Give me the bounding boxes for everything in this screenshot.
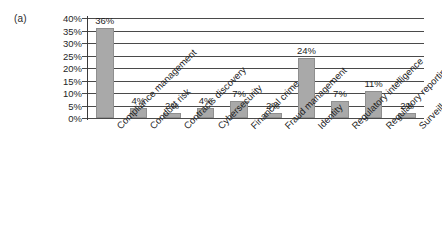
x-axis-category-label: Contracts discovery	[182, 124, 189, 131]
gridline	[88, 43, 424, 44]
gridline	[88, 56, 424, 57]
y-axis-tick-label: 5%	[48, 102, 82, 112]
y-axis-tick-label: 15%	[48, 77, 82, 87]
y-axis-tick-label: 35%	[48, 27, 82, 37]
x-axis-category-label: Fraud management	[283, 124, 290, 131]
panel-marker: (a)	[14, 13, 27, 24]
x-axis-category-label: Financial crime	[249, 124, 256, 131]
y-axis-tick	[82, 56, 87, 57]
gridline	[88, 68, 424, 69]
x-axis-category-label: Cybersecurity	[216, 124, 223, 131]
y-axis-tick-label: 20%	[48, 64, 82, 74]
gridline	[88, 18, 424, 19]
chart-figure: (a) 40%35%30%25%20%15%10%5%0% 36%4%2%4%7…	[0, 0, 442, 243]
y-axis-tick	[82, 93, 87, 94]
y-axis-tick	[82, 68, 87, 69]
bar[interactable]	[96, 28, 113, 118]
x-axis-category-label: Compliance management	[115, 124, 122, 131]
y-axis-tick-label: 30%	[48, 39, 82, 49]
y-axis-tick	[82, 106, 87, 107]
x-axis-category-label: Regulatory intelligence	[350, 124, 357, 131]
x-axis-category-label: Regulatory reporting	[384, 124, 391, 131]
x-axis-category-label: Identity	[316, 124, 323, 131]
y-axis-tick	[82, 81, 87, 82]
bar-value-label: 36%	[88, 16, 122, 26]
y-axis-tick-label: 0%	[48, 114, 82, 124]
y-axis-tick-labels: 40%35%30%25%20%15%10%5%0%	[46, 18, 82, 118]
y-axis-tick-label: 25%	[48, 52, 82, 62]
x-axis-category-label: Surveillance	[417, 124, 424, 131]
y-axis-tick	[82, 118, 87, 119]
y-axis-tick-label: 10%	[48, 89, 82, 99]
x-axis-category-label: Conduct risk	[148, 124, 155, 131]
bar-value-label: 24%	[290, 46, 324, 56]
gridline	[88, 31, 424, 32]
y-axis-tick	[82, 18, 87, 19]
y-axis-tick	[82, 43, 87, 44]
y-axis-tick	[82, 31, 87, 32]
y-axis-tick-label: 40%	[48, 14, 82, 24]
